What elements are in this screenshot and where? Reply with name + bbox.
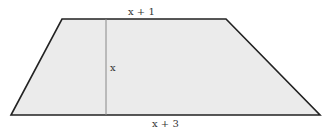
trapezoid-shape — [11, 19, 320, 115]
top-side-label: x + 1 — [128, 6, 155, 17]
height-label: x — [110, 62, 116, 73]
trapezoid-diagram: x + 1 x x + 3 — [0, 0, 327, 131]
bottom-side-label: x + 3 — [152, 118, 179, 129]
